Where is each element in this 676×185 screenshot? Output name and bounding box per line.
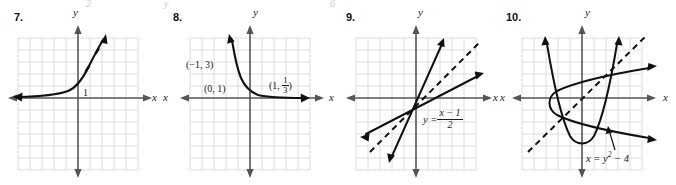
- graph-10-y-axis-label: y: [585, 6, 590, 18]
- figure-sheet: 2 y 6 7.: [0, 0, 676, 185]
- curve-arrowheads-7: [13, 34, 108, 101]
- graph-8-x-axis-label-left: x: [163, 91, 168, 103]
- equation-denominator: 2: [437, 119, 462, 131]
- graph-8-point-label-b: (0, 1): [204, 83, 226, 94]
- graph-7-x-axis-label: x: [152, 91, 157, 103]
- graph-10-x-axis-label-right: x: [663, 91, 668, 103]
- equation-numerator: x − 1: [437, 108, 462, 119]
- equation-pointer-10: [609, 130, 615, 150]
- parabola-sideways-10: [550, 68, 650, 138]
- graph-8-canvas: [176, 22, 332, 180]
- problem-10: 10.: [490, 0, 676, 185]
- equation-fraction: x − 12: [437, 108, 462, 130]
- graph-7-tick-label-1: 1: [83, 87, 88, 98]
- graph-10-x-axis-label-left: x: [493, 91, 498, 103]
- graph-10-equation-label: x = y2 − 4: [586, 150, 629, 164]
- graph-9-y-axis-label: y: [418, 6, 423, 18]
- problem-9: 9.: [330, 0, 505, 185]
- graph-9-equation-label: y =x − 12: [423, 108, 463, 130]
- graph-7-y-axis-label: y: [73, 6, 78, 18]
- point-label-c-suffix: ): [289, 80, 292, 91]
- equation-text-suffix: − 4: [611, 153, 629, 164]
- equation-text-prefix: x = y: [586, 153, 608, 164]
- parabola-sideways-arrowheads-10: [647, 63, 657, 143]
- graph-8-point-label-a: (−1, 3): [186, 59, 213, 70]
- graph-7-canvas: [8, 22, 160, 180]
- line-steep-9: [392, 44, 442, 156]
- graph-9-canvas: [344, 22, 502, 180]
- problem-7: 7.: [0, 0, 170, 185]
- point-label-c-prefix: (1,: [269, 80, 282, 91]
- problem-8: 8.: [160, 0, 340, 185]
- equation-lhs: y =: [423, 114, 437, 125]
- graph-8-y-axis-label: y: [253, 6, 258, 18]
- graph-8-point-label-c: (1, 13): [269, 76, 292, 94]
